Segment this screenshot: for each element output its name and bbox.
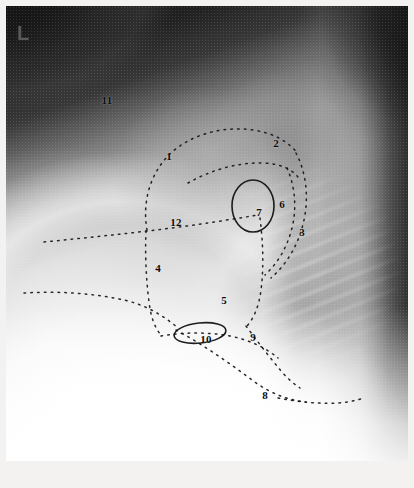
- label-8: 8: [262, 390, 268, 401]
- ellipse-7: [232, 180, 274, 232]
- xray-dark-corner-top-left: [6, 6, 408, 461]
- contour-lower-diaphragm: [176, 330, 306, 402]
- xray-thoracic-spine: [6, 6, 408, 461]
- xray-retrosternal-lung: [6, 6, 408, 461]
- label-5: 5: [221, 295, 227, 306]
- label-11: 11: [102, 95, 113, 106]
- contour-mid-horizontal: [44, 215, 258, 242]
- xray-rib-striations: [6, 6, 408, 461]
- xray-sternum-band: [6, 6, 408, 461]
- contour-upper-inner-arc: [188, 163, 300, 183]
- side-orientation-marker: L: [14, 20, 32, 46]
- label-10: 10: [200, 334, 211, 345]
- xray-anterior-chest-wall: [6, 6, 408, 461]
- lateral-chest-radiograph: L 123456789101112: [6, 6, 408, 461]
- contour-posterior-heart-border: [271, 153, 306, 278]
- xray-figure: L 123456789101112: [0, 0, 414, 488]
- label-12: 12: [170, 217, 181, 228]
- xray-contrast-haze: [6, 6, 408, 461]
- xray-subdiaphragmatic-area: [6, 6, 408, 461]
- label-9: 9: [250, 332, 256, 343]
- contour-posterior-costophrenic: [278, 398, 364, 403]
- xray-bottom-brightness: [6, 6, 408, 461]
- xray-dark-corner-top-right: [6, 6, 408, 461]
- annotation-overlay: [6, 6, 408, 461]
- contour-diaphragm-dome: [161, 333, 278, 358]
- label-1: 1: [166, 151, 172, 162]
- xray-tone-base: [6, 6, 408, 461]
- xray-film-grain: [6, 6, 408, 461]
- xray-posterior-lung: [6, 6, 408, 461]
- contour-line-group: [24, 129, 364, 403]
- label-7: 7: [256, 207, 262, 218]
- label-3: 3: [299, 227, 305, 238]
- label-6: 6: [279, 199, 285, 210]
- label-2: 2: [273, 138, 279, 149]
- contour-inner-posterior: [265, 168, 295, 275]
- xray-dark-band-right: [6, 6, 408, 461]
- label-4: 4: [155, 263, 161, 274]
- contour-right-vertical-descent: [247, 218, 263, 326]
- xray-hilar-density: [6, 6, 408, 461]
- contour-lower-left-horizontal: [24, 292, 178, 328]
- contour-left-vertical-descent: [146, 231, 161, 335]
